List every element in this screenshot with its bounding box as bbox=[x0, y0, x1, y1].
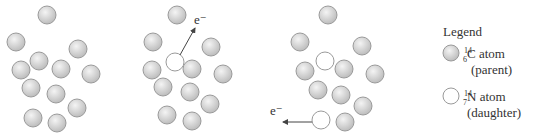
parent-atom bbox=[24, 109, 42, 127]
parent-atom bbox=[69, 40, 87, 58]
legend-parent-icon bbox=[443, 45, 459, 61]
legend-title: Legend bbox=[443, 24, 482, 39]
parent-atom bbox=[38, 6, 56, 24]
legend-daughter-icon bbox=[443, 88, 459, 104]
parent-atom bbox=[201, 95, 219, 113]
parent-atom bbox=[183, 112, 201, 130]
daughter-atom bbox=[312, 111, 330, 129]
parent-atom bbox=[183, 60, 201, 78]
parent-atom bbox=[22, 79, 40, 97]
parent-atom bbox=[30, 52, 48, 70]
parent-atom bbox=[82, 65, 100, 83]
parent-atom bbox=[202, 38, 220, 56]
parent-atom bbox=[143, 61, 161, 79]
parent-atom bbox=[144, 33, 162, 51]
parent-atom bbox=[52, 60, 70, 78]
parent-atom bbox=[319, 6, 337, 24]
parent-atom bbox=[12, 61, 30, 79]
parent-atom bbox=[335, 60, 353, 78]
parent-atom bbox=[296, 62, 314, 80]
parent-atom bbox=[291, 33, 309, 51]
parent-atom bbox=[7, 33, 25, 51]
parent-atom bbox=[354, 97, 372, 115]
electron-arrow-icon bbox=[180, 28, 195, 55]
parent-atom bbox=[47, 85, 65, 103]
electron-label: e⁻ bbox=[194, 12, 207, 27]
electron-label: e⁻ bbox=[270, 103, 283, 118]
parent-atom bbox=[158, 106, 176, 124]
legend: Legend 146C atom (parent) 147N atom (dau… bbox=[443, 24, 521, 120]
parent-atom bbox=[309, 81, 327, 99]
parent-atom bbox=[48, 114, 66, 132]
daughter-atom bbox=[166, 53, 184, 71]
parent-atom bbox=[68, 99, 86, 117]
daughter-atom bbox=[316, 52, 334, 70]
decay-diagram: e⁻e⁻ Legend 146C atom (parent) 147N atom… bbox=[0, 0, 549, 136]
parent-atom bbox=[332, 86, 350, 104]
parent-atom bbox=[353, 37, 371, 55]
parent-atom bbox=[366, 65, 384, 83]
legend-daughter-role: (daughter) bbox=[467, 105, 521, 120]
parent-atom bbox=[336, 113, 354, 131]
parent-atom bbox=[168, 6, 186, 24]
parent-atom bbox=[154, 78, 172, 96]
legend-parent-role: (parent) bbox=[471, 62, 512, 77]
parent-atom bbox=[214, 65, 232, 83]
parent-atom bbox=[181, 83, 199, 101]
